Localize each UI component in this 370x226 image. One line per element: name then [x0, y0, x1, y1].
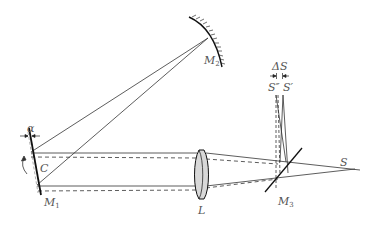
rotation-arrow-icon: [22, 156, 28, 174]
label-M3: M3: [277, 195, 294, 209]
rays-to-m2: [31, 38, 208, 185]
label-M1: M1: [43, 196, 60, 210]
mirror-m3: [265, 148, 302, 192]
label-M2: M2: [203, 54, 220, 68]
label-alpha: α: [27, 122, 35, 135]
lens-l: [195, 150, 209, 199]
label-S-double-prime: S″: [268, 81, 281, 94]
label-C: C: [40, 162, 49, 175]
label-S-prime: S′: [283, 81, 294, 94]
label-delta-s: ΔS: [271, 60, 288, 73]
label-S: S: [340, 156, 348, 169]
delta-s-marker: [270, 73, 289, 79]
label-L: L: [197, 204, 205, 217]
optical-diagram: α C M1 M2 L M3: [0, 0, 370, 226]
